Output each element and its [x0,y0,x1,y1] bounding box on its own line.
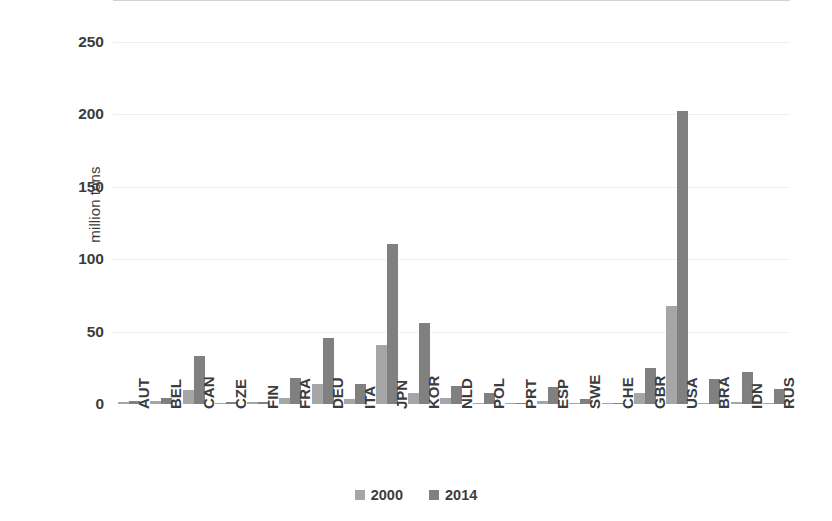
x-axis-label-jpn: JPN [393,339,410,409]
y-axis-tick-label: 100 [48,250,104,268]
x-axis-label-ita: ITA [361,339,378,409]
x-axis-label-esp: ESP [554,339,571,409]
x-axis-label-fin: FIN [264,339,281,409]
y-axis-tick-label: 50 [48,323,104,341]
x-axis-label-can: CAN [200,339,217,409]
bar-can-2000 [183,390,194,404]
x-axis-label-idn: IDN [748,339,765,409]
x-axis-label-bel: BEL [167,339,184,409]
y-axis-tick-label: 200 [48,105,104,123]
y-axis-tick-label: 250 [48,33,104,51]
y-axis-tick-label: 150 [48,178,104,196]
legend-item-2014[interactable]: 2014 [429,487,477,503]
legend-swatch-icon [429,490,439,500]
bar-chart: million tons 050100150200250 AUTBELCANCZ… [0,0,832,521]
bar-nld-2000 [440,398,451,404]
x-axis-label-rus: RUS [780,339,797,409]
x-axis-label-che: CHE [619,339,636,409]
x-axis-label-gbr: GBR [651,339,668,409]
x-axis-label-cze: CZE [232,339,249,409]
x-axis-label-deu: DEU [329,339,346,409]
x-axis-line [113,0,790,1]
x-axis-label-usa: USA [683,339,700,409]
legend-item-2000[interactable]: 2000 [355,487,403,503]
legend-swatch-icon [355,490,365,500]
y-axis-tick-label: 0 [48,395,104,413]
bar-che-2000 [602,403,613,404]
legend-label: 2000 [371,487,403,503]
bar-bra-2000 [698,403,709,404]
bar-swe-2000 [569,403,580,404]
x-axis-label-pol: POL [490,339,507,409]
x-axis-label-fra: FRA [296,339,313,409]
bar-aut-2000 [118,402,129,404]
legend-label: 2014 [445,487,477,503]
bar-idn-2000 [731,402,742,404]
x-axis-label-aut: AUT [135,339,152,409]
x-axis-label-bra: BRA [715,339,732,409]
x-axis-label-kor: KOR [425,339,442,409]
bar-deu-2000 [312,384,323,404]
x-axis-label-swe: SWE [586,339,603,409]
x-axis-label-nld: NLD [458,339,475,409]
x-axis-label-prt: PRT [522,339,539,409]
chart-legend: 20002014 [0,487,832,503]
